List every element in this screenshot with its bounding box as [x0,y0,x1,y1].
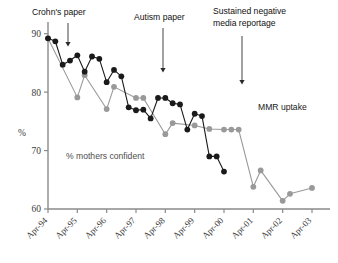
x-tick-label: Apr-97 [112,215,138,241]
annotation-crohns-paper: Crohn's paper [32,7,86,17]
data-point [206,154,212,160]
data-point [133,95,139,101]
data-point [236,127,242,133]
x-tick-label: Apr-98 [141,215,167,241]
data-point [177,102,183,108]
chart-container: 60708090 % Apr-94Apr-95Apr-96Apr-97Apr-9… [0,0,338,263]
data-point [148,116,154,122]
y-axis-tick-labels: 60708090 [32,29,42,214]
data-point [170,120,176,126]
y-axis-title: % [18,128,26,138]
data-point [170,100,176,106]
data-point [199,113,205,119]
y-tick-label: 90 [32,29,42,39]
data-point [140,95,146,101]
x-tick-label: Apr-94 [24,215,50,241]
x-tick-label: Apr-02 [259,215,284,240]
data-point [111,84,117,90]
data-point [89,54,95,60]
mmr-uptake-line-chart: 60708090 % Apr-94Apr-95Apr-96Apr-97Apr-9… [0,0,338,263]
x-axis-tick-labels: Apr-94Apr-95Apr-96Apr-97Apr-98Apr-99Apr-… [24,215,314,241]
x-tick-label: Apr-01 [229,215,254,240]
data-point [155,95,161,101]
data-point [104,79,110,85]
data-point [228,127,234,133]
data-point [126,104,132,110]
data-point [60,62,66,68]
chart-axes [44,22,330,213]
data-point [162,131,168,137]
y-tick-label: 60 [32,204,42,214]
data-point [309,185,315,191]
y-tick-label: 70 [32,146,42,156]
data-point [184,127,190,133]
x-tick-label: Apr-95 [53,215,79,241]
series-mothers-confident [45,35,315,203]
x-tick-label: Apr-96 [83,215,109,241]
data-point [104,106,110,112]
annotation-arrows [68,23,242,82]
data-point [74,94,80,100]
data-point [82,69,88,75]
x-tick-label: Apr-99 [171,215,197,241]
data-point [221,127,227,133]
data-point [133,107,139,113]
data-point [45,35,51,41]
series-line [48,38,312,200]
data-point [192,111,198,117]
data-point [206,126,212,132]
x-tick-label: Apr-00 [200,215,226,241]
data-point [96,56,102,62]
data-point [280,198,286,204]
data-point [287,191,293,197]
x-tick-label: Apr-03 [288,215,314,241]
series-label-mmr-uptake: MMR uptake [258,102,307,112]
annotation-media-line1: Sustained negative [213,6,286,16]
annotation-media-line2: media reportage [213,18,276,28]
data-point [214,154,220,160]
data-point [221,169,227,175]
data-point [258,168,264,174]
data-point [192,123,198,129]
data-point [67,58,73,64]
data-point [118,73,124,79]
data-point [250,184,256,190]
annotation-autism-paper: Autism paper [134,12,185,22]
data-point [162,95,168,101]
y-tick-label: 80 [32,88,42,98]
data-point [111,67,117,73]
series-label-mothers-confident: % mothers confident [66,151,145,161]
data-point [52,38,58,44]
data-point [140,107,146,113]
data-point [74,52,80,58]
